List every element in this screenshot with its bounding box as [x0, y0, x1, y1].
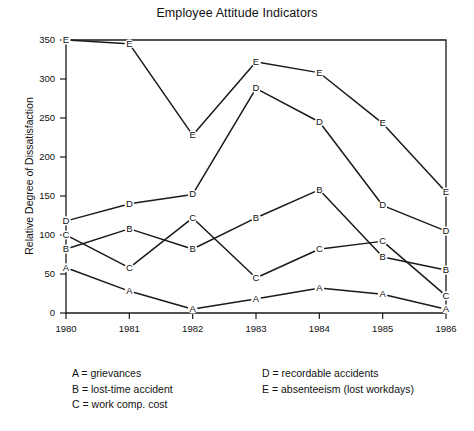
- x-tick-label: 1982: [182, 323, 203, 334]
- data-point-E-1985: E: [379, 117, 385, 128]
- x-tick-label: 1984: [309, 323, 330, 334]
- data-point-D-1980: D: [63, 215, 70, 226]
- data-point-E-1983: E: [253, 56, 259, 67]
- series-segment-D: [134, 195, 187, 203]
- data-point-A-1980: A: [63, 262, 70, 273]
- x-tick-label: 1981: [119, 323, 140, 334]
- data-point-C-1983: C: [253, 272, 260, 283]
- data-point-E-1986: E: [443, 186, 449, 197]
- markers-layer: AAAAAAABBBBBBBCCCCCCCDDDDDDDEEEEEEE: [61, 34, 450, 314]
- legend-entry-right-0: D = recordable accidents: [262, 366, 414, 382]
- chart-container: Employee Attitude Indicators Relative De…: [0, 0, 474, 431]
- x-tick-label: 1980: [55, 323, 76, 334]
- series-segment-A: [325, 289, 378, 294]
- data-point-A-1982: A: [189, 303, 196, 314]
- data-point-B-1980: B: [63, 243, 69, 254]
- y-tick-label: 250: [39, 112, 55, 123]
- series-segment-D: [71, 205, 124, 219]
- data-point-C-1985: C: [379, 235, 386, 246]
- y-tick-label: 0: [50, 307, 55, 318]
- y-tick-label: 200: [39, 151, 55, 162]
- data-point-A-1983: A: [253, 293, 260, 304]
- series-segment-E: [261, 63, 314, 72]
- series-segment-D: [261, 91, 315, 120]
- series-segment-C: [324, 242, 377, 249]
- data-point-D-1986: D: [443, 225, 450, 236]
- series-segment-B: [388, 258, 441, 269]
- data-point-A-1984: A: [316, 282, 323, 293]
- y-tick-label: 100: [39, 229, 55, 240]
- legend-entry-left-2: C = work comp. cost: [72, 397, 173, 413]
- series-segment-E: [71, 40, 124, 43]
- legend-column-left: A = grievancesB = lost-time accidentC = …: [72, 366, 173, 413]
- series-segment-A: [198, 300, 251, 309]
- legend-entry-right-1: E = absenteeism (lost workdays): [262, 382, 414, 398]
- data-point-C-1981: C: [126, 262, 133, 273]
- series-segment-B: [134, 230, 187, 247]
- data-point-A-1981: A: [126, 285, 133, 296]
- legend: A = grievancesB = lost-time accidentC = …: [0, 366, 474, 426]
- series-segment-B: [197, 220, 251, 247]
- legend-entry-left-0: A = grievances: [72, 366, 173, 382]
- series-segment-A: [134, 293, 187, 308]
- data-point-A-1986: A: [443, 303, 450, 314]
- series-segment-B: [261, 192, 315, 216]
- data-point-B-1986: B: [443, 264, 449, 275]
- series-segment-E: [386, 127, 442, 188]
- x-tick-label: 1983: [245, 323, 266, 334]
- data-point-B-1983: B: [253, 212, 259, 223]
- data-point-B-1984: B: [316, 184, 322, 195]
- series-segment-E: [196, 66, 253, 131]
- x-tick-label: 1985: [372, 323, 393, 334]
- data-point-E-1981: E: [126, 38, 132, 49]
- series-segment-B: [71, 230, 124, 247]
- series-segment-C: [133, 221, 188, 264]
- series-segment-C: [261, 251, 315, 276]
- data-point-D-1985: D: [379, 199, 386, 210]
- y-tick-label: 50: [44, 268, 55, 279]
- data-point-D-1984: D: [316, 116, 323, 127]
- data-point-C-1982: C: [189, 212, 196, 223]
- series-segment-A: [261, 289, 314, 298]
- data-point-C-1986: C: [443, 290, 450, 301]
- y-tick-label: 350: [39, 34, 55, 45]
- data-point-A-1985: A: [379, 288, 386, 299]
- series-segment-C: [196, 221, 252, 274]
- y-tick-label: 300: [39, 73, 55, 84]
- series-segment-B: [323, 194, 379, 254]
- data-point-C-1980: C: [63, 229, 70, 240]
- series-segment-D: [322, 126, 379, 201]
- x-tick-label: 1986: [435, 323, 456, 334]
- series-segment-E: [323, 76, 378, 120]
- axes-layer: 0501001502002503003501980198119821983198…: [39, 34, 456, 334]
- data-point-E-1980: E: [63, 34, 69, 45]
- data-point-C-1984: C: [316, 243, 323, 254]
- series-segment-C: [71, 237, 125, 265]
- data-point-D-1982: D: [189, 188, 196, 199]
- data-point-E-1982: E: [189, 129, 195, 140]
- data-point-B-1982: B: [189, 243, 195, 254]
- data-point-E-1984: E: [316, 67, 322, 78]
- series-segment-C: [387, 245, 442, 293]
- series-segment-D: [195, 93, 253, 190]
- series-segment-D: [387, 207, 441, 229]
- data-point-D-1983: D: [253, 82, 260, 93]
- data-point-D-1981: D: [126, 198, 133, 209]
- y-tick-label: 150: [39, 190, 55, 201]
- series-segment-E: [132, 48, 189, 131]
- legend-column-right: D = recordable accidentsE = absenteeism …: [262, 366, 414, 397]
- legend-entry-left-1: B = lost-time accident: [72, 382, 173, 398]
- data-point-B-1981: B: [126, 223, 132, 234]
- data-point-B-1985: B: [379, 251, 385, 262]
- series-segment-A: [388, 295, 441, 307]
- series-segment-A: [71, 270, 125, 290]
